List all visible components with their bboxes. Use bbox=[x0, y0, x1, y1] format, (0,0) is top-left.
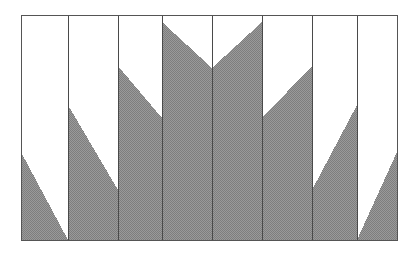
figure-root bbox=[0, 0, 417, 256]
sawtooth-pattern-chart bbox=[0, 0, 417, 256]
